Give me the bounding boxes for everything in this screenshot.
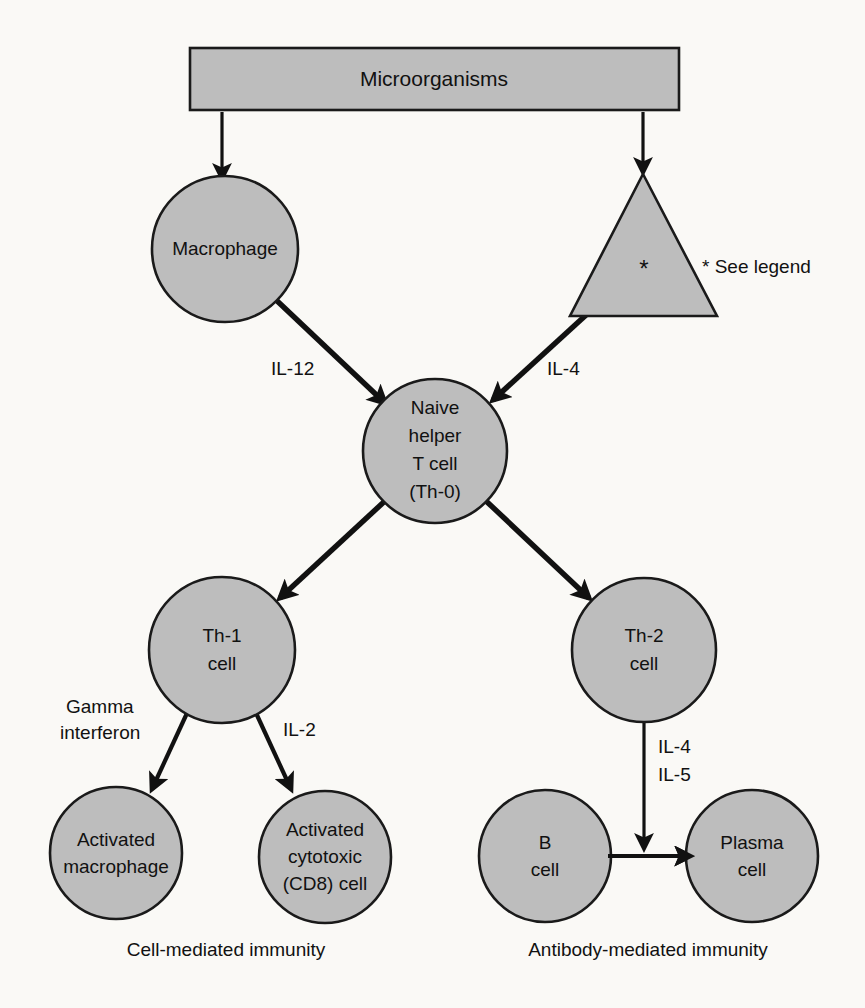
b-cell-circle [479,790,611,922]
node-macrophage[interactable]: Macrophage [152,176,298,322]
edge-label-il12: IL-12 [271,358,314,379]
node-b-cell[interactable]: B cell [479,790,611,922]
edge-label-gamma-interferon-line2: interferon [60,722,140,743]
arrow-macrophage-to-naive-t [274,298,385,403]
node-th1-cell[interactable]: Th-1 cell [149,577,295,723]
arrow-naive-t-to-th1 [280,500,386,598]
activated-macrophage-label-line1: Activated [77,829,155,850]
naive-helper-t-label-line3: T cell [412,453,457,474]
edge-label-gamma-interferon-line1: Gamma [66,696,134,717]
node-microorganisms[interactable]: Microorganisms [190,48,679,110]
arrow-apc-to-naive-t [493,305,597,400]
see-legend-annotation: * See legend [702,256,811,277]
node-activated-macrophage[interactable]: Activated macrophage [50,787,182,919]
th2-label-line1: Th-2 [624,625,663,646]
activated-macrophage-label-line2: macrophage [63,856,169,877]
activated-cytotoxic-label-line3: (CD8) cell [283,873,367,894]
node-apc-triangle[interactable]: * [570,174,717,316]
th2-circle [572,578,716,722]
arrow-naive-t-to-th2 [485,500,589,598]
th2-label-line2: cell [630,653,659,674]
naive-helper-t-label-line1: Naive [411,397,460,418]
activated-cytotoxic-label-line2: cytotoxic [288,846,362,867]
edge-label-il4-top: IL-4 [547,358,580,379]
macrophage-label: Macrophage [172,238,278,259]
naive-helper-t-label-line2: helper [409,425,462,446]
b-cell-label-line1: B [539,832,552,853]
caption-antibody-mediated-immunity: Antibody-mediated immunity [528,939,768,960]
arrow-th1-to-activated-macrophage [152,711,188,789]
node-activated-cytotoxic-cd8-cell[interactable]: Activated cytotoxic (CD8) cell [259,791,391,923]
edge-label-il4-bottom: IL-4 [658,736,691,757]
b-cell-label-line2: cell [531,859,560,880]
diagram-canvas: Microorganisms Macrophage * * See legend… [0,0,865,1008]
node-naive-helper-t-cell[interactable]: Naive helper T cell (Th-0) [363,379,507,523]
plasma-cell-label-line1: Plasma [720,832,784,853]
apc-triangle-shape [570,174,717,316]
plasma-cell-circle [686,790,818,922]
node-plasma-cell[interactable]: Plasma cell [686,790,818,922]
activated-macrophage-circle [50,787,182,919]
edge-label-il5-bottom: IL-5 [658,764,691,785]
th1-circle [149,577,295,723]
caption-cell-mediated-immunity: Cell-mediated immunity [127,939,326,960]
plasma-cell-label-line2: cell [738,859,767,880]
naive-helper-t-label-line4: (Th-0) [409,481,461,502]
edge-label-il2: IL-2 [283,719,316,740]
apc-asterisk-label: * [639,255,648,282]
node-th2-cell[interactable]: Th-2 cell [572,578,716,722]
immunity-pathway-figure: Microorganisms Macrophage * * See legend… [0,0,865,1008]
th1-label-line1: Th-1 [202,625,241,646]
th1-label-line2: cell [208,653,237,674]
activated-cytotoxic-label-line1: Activated [286,819,364,840]
microorganisms-label: Microorganisms [360,67,508,90]
